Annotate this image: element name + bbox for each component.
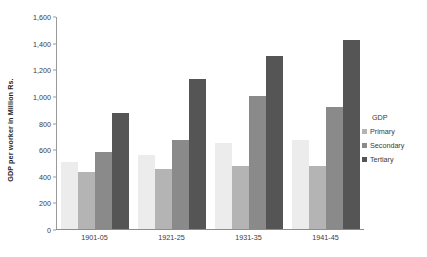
y-axis-tick-mark <box>53 230 56 231</box>
y-axis-tick-label: 600 <box>39 146 51 155</box>
y-axis-title: GDP per worker in Million Rs. <box>6 60 16 200</box>
x-axis-tick-label: 1901-05 <box>56 233 133 242</box>
y-axis-tick-label: 1,000 <box>33 92 51 101</box>
bar[interactable] <box>326 107 343 229</box>
bar-group <box>133 17 210 229</box>
y-axis-tick-label: 1,400 <box>33 39 51 48</box>
legend-item-label: Secondary <box>370 141 404 150</box>
bar[interactable] <box>215 143 232 229</box>
legend-item[interactable]: Tertiary <box>362 155 426 164</box>
legend-swatch-icon <box>362 143 367 148</box>
bar-chart: GDP per worker in Million Rs. 0200400600… <box>0 0 427 257</box>
bar[interactable] <box>172 140 189 229</box>
x-axis-label-group: 1901-051921-251931-351941-45 <box>56 233 364 242</box>
x-axis-tick-label: 1931-35 <box>210 233 287 242</box>
y-axis-tick-label: 200 <box>39 199 51 208</box>
bar[interactable] <box>249 96 266 229</box>
bar-group-container <box>56 17 364 229</box>
bar[interactable] <box>189 79 206 229</box>
bar[interactable] <box>232 166 249 229</box>
bar[interactable] <box>155 169 172 229</box>
x-axis-line <box>56 229 364 230</box>
y-axis-tick-label: 1,200 <box>33 66 51 75</box>
bar[interactable] <box>138 155 155 229</box>
bar[interactable] <box>292 140 309 229</box>
legend-swatch-icon <box>362 157 367 162</box>
x-axis-tick-label: 1941-45 <box>287 233 364 242</box>
legend-item-label: Primary <box>370 127 395 136</box>
bar[interactable] <box>78 172 95 229</box>
legend-item[interactable]: Secondary <box>362 141 426 150</box>
legend-swatch-icon <box>362 129 367 134</box>
bar[interactable] <box>266 56 283 229</box>
bar[interactable] <box>61 162 78 229</box>
plot-area: 02004006008001,0001,2001,4001,600 <box>56 17 364 230</box>
legend: GDP PrimarySecondaryTertiary <box>362 113 426 169</box>
bar-group <box>210 17 287 229</box>
legend-title: GDP <box>372 113 426 122</box>
y-axis-tick-label: 400 <box>39 172 51 181</box>
bar-group <box>56 17 133 229</box>
x-axis-tick-label: 1921-25 <box>133 233 210 242</box>
legend-item-label: Tertiary <box>370 155 394 164</box>
legend-item[interactable]: Primary <box>362 127 426 136</box>
bar[interactable] <box>95 152 112 229</box>
bar[interactable] <box>112 113 129 229</box>
legend-item-container: PrimarySecondaryTertiary <box>362 127 426 164</box>
y-axis-tick-label: 0 <box>47 226 51 235</box>
bar[interactable] <box>343 40 360 229</box>
bar-group <box>287 17 364 229</box>
y-axis-tick-label: 800 <box>39 119 51 128</box>
y-axis-tick-label: 1,600 <box>33 13 51 22</box>
bar[interactable] <box>309 166 326 229</box>
